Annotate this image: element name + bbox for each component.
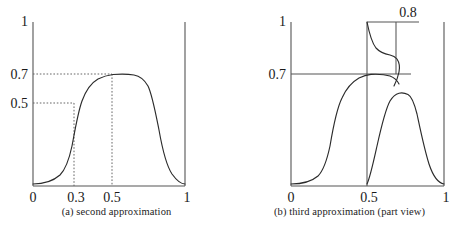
panel-a-ytick-1: 1 <box>21 14 28 29</box>
panel-b-annotation-0.8: 0.8 <box>399 5 417 20</box>
panel-a-second-approximation: 1 0.7 0.5 0 0.3 0.5 1 (a) second approxi… <box>0 0 233 232</box>
panel-b-caption: (b) third approximation (part view) <box>233 206 466 217</box>
panel-b-curve-falling-branch <box>367 93 444 184</box>
panel-a-caption: (a) second approximation <box>0 206 233 217</box>
panel-b-ytick-0.7: 0.7 <box>269 67 287 82</box>
panel-a-xtick-0.5: 0.5 <box>103 190 121 205</box>
panel-a-curve-second-approximation <box>33 74 185 184</box>
panel-a-xtick-0.3: 0.3 <box>67 190 85 205</box>
panel-b-xtick-0.5: 0.5 <box>360 190 378 205</box>
panel-b-third-approximation: 1 0.7 0.8 0 0.5 1 (b) third approximatio… <box>233 0 466 232</box>
panel-a-ytick-0.7: 0.7 <box>11 67 29 82</box>
panel-b-curve-upper-branch <box>367 22 399 86</box>
panel-a-plot: 1 0.7 0.5 0 0.3 0.5 1 <box>0 0 233 205</box>
panel-a-xtick-1: 1 <box>184 190 191 205</box>
panel-a-ytick-0.5: 0.5 <box>11 96 29 111</box>
figure-container: 1 0.7 0.5 0 0.3 0.5 1 (a) second approxi… <box>0 0 467 232</box>
panel-a-xtick-0: 0 <box>30 190 37 205</box>
panel-b-ytick-1: 1 <box>279 14 286 29</box>
panel-b-plot: 1 0.7 0.8 0 0.5 1 <box>233 0 466 205</box>
panel-b-xtick-0: 0 <box>288 190 295 205</box>
panel-b-curve-rising-branch <box>291 74 399 184</box>
panel-b-xtick-1: 1 <box>443 190 450 205</box>
